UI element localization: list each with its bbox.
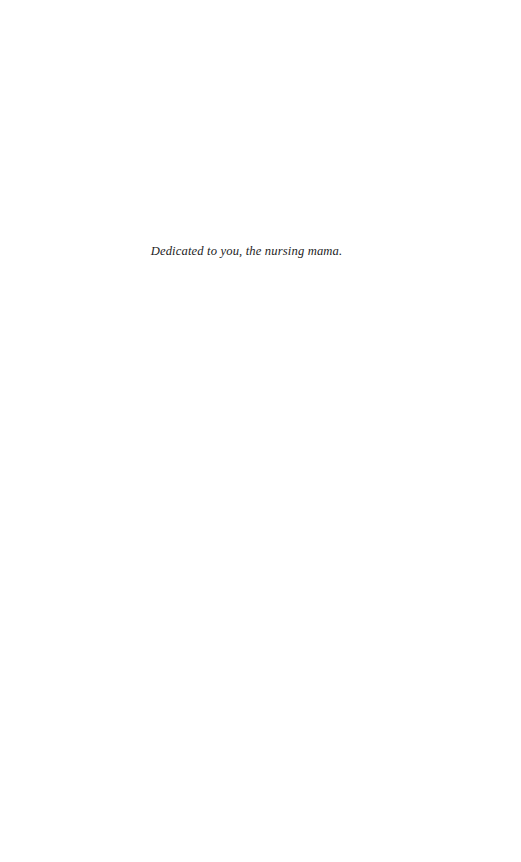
dedication-text: Dedicated to you, the nursing mama. (151, 244, 343, 259)
blank-page-area (0, 260, 521, 862)
book-page: Dedicated to you, the nursing mama. (0, 0, 521, 862)
